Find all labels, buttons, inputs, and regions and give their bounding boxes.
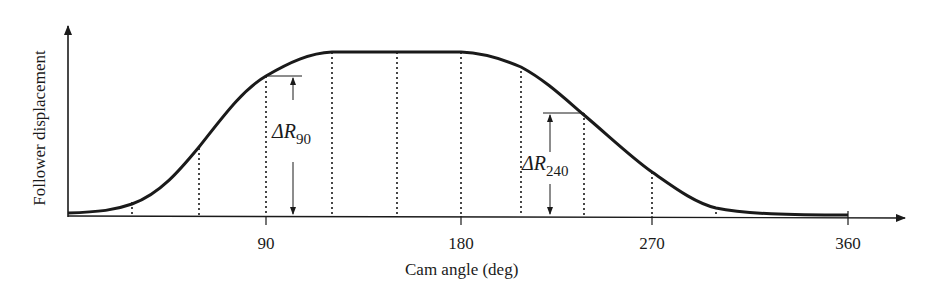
x-tick-360: 360 — [835, 234, 861, 254]
delta-r90-base: ΔR — [272, 120, 296, 142]
displacement-curve — [68, 52, 848, 215]
x-axis-label: Cam angle (deg) — [405, 260, 518, 280]
displacement-diagram — [0, 0, 937, 299]
delta-r90-sub: 90 — [296, 131, 311, 147]
y-axis-label: Follower displacement — [30, 28, 50, 228]
delta-r90-label: ΔR90 — [272, 120, 311, 148]
x-tick-270: 270 — [639, 234, 665, 254]
delta-r240-base: ΔR — [522, 152, 546, 174]
delta-r240-label: ΔR240 — [522, 152, 568, 180]
x-tick-90: 90 — [258, 234, 275, 254]
delta-r240-sub: 240 — [546, 163, 569, 179]
x-tick-180: 180 — [448, 234, 474, 254]
dotted-guides — [132, 52, 716, 216]
x-axis — [68, 216, 905, 218]
